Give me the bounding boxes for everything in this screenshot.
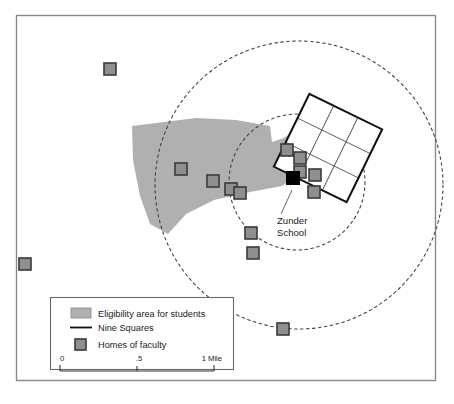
faculty-home-marker (281, 144, 293, 156)
legend-label-eligibility: Eligibility area for students (98, 309, 206, 319)
faculty-home-marker (277, 323, 289, 335)
faculty-home-marker (294, 152, 306, 164)
faculty-home-marker (104, 63, 116, 75)
faculty-home-marker (309, 169, 321, 181)
legend: Eligibility area for students Nine Squar… (51, 298, 234, 372)
faculty-home-marker (234, 187, 246, 199)
faculty-home-marker (245, 227, 257, 239)
faculty-home-marker (19, 258, 31, 270)
faculty-home-marker (175, 163, 187, 175)
scale-tick-label-one-mile: 1 Mile (202, 354, 222, 363)
faculty-home-marker (207, 175, 219, 187)
zunder-school-marker (286, 171, 300, 185)
legend-label-nine-squares: Nine Squares (98, 323, 154, 333)
legend-label-faculty: Homes of faculty (98, 340, 167, 350)
map-canvas: Zunder School Eligibility area for stude… (0, 0, 454, 404)
zunder-school-label-line1: Zunder (277, 215, 308, 226)
faculty-home-marker (247, 247, 259, 259)
scale-tick-label-0: 0 (60, 354, 64, 363)
scale-tick-label-half: .5 (136, 354, 142, 363)
map-figure: Zunder School Eligibility area for stude… (0, 0, 454, 404)
legend-area-swatch (71, 308, 91, 318)
faculty-home-marker (308, 186, 320, 198)
zunder-school-label-line2: School (277, 227, 306, 238)
legend-square-swatch (75, 339, 86, 350)
